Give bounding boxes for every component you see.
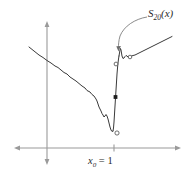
partial-sum-curve-group: [29, 37, 172, 132]
jump-midpoint-filled-dot-marker: [114, 95, 118, 99]
y-axis-down-arrowhead: [45, 159, 50, 165]
label-leader-curve: [118, 17, 147, 48]
x-axis-left-arrowhead: [14, 146, 20, 151]
left-branch-curve: [29, 47, 113, 132]
gibbs-phenomenon-figure: S20(x) x0 = 1: [0, 0, 193, 176]
figure-canvas: [0, 0, 193, 176]
upper-limit-open-circle-marker: [114, 62, 118, 66]
series-label-order: 20: [154, 13, 161, 22]
ringing-open-circle-marker: [128, 55, 132, 59]
series-label-argument: (x): [161, 7, 173, 19]
discontinuity-markers-group: [114, 55, 132, 135]
y-axis-up-arrowhead: [45, 21, 50, 27]
x-axis-right-arrowhead: [175, 146, 181, 151]
series-label: S20(x): [148, 8, 173, 22]
lower-limit-open-circle-marker: [115, 131, 119, 135]
x0-label-value: = 1: [96, 155, 112, 166]
x0-axis-label: x0 = 1: [88, 156, 113, 169]
right-branch-curve: [119, 37, 172, 59]
axes-group: [14, 21, 181, 165]
label-leader-arrow-group: [116, 17, 147, 52]
jump-rise-curve: [113, 56, 119, 131]
